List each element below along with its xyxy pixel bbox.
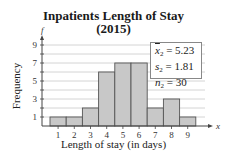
histogram-bar <box>66 117 82 126</box>
histogram-bar <box>82 108 98 126</box>
histogram-bar <box>163 99 179 126</box>
y-axis-arrow-icon <box>40 35 44 40</box>
legend-mean: x2 = 5.23 <box>155 44 201 60</box>
y-axis-label: Frequency <box>10 61 22 111</box>
legend-n: n2 = 30 <box>155 76 201 92</box>
y-tick-label: 7 <box>33 58 38 68</box>
x-axis-arrow-icon <box>208 124 213 128</box>
histogram-bar <box>147 108 163 126</box>
legend-sd: s2 = 1.81 <box>155 60 201 76</box>
histogram-bar <box>50 117 66 126</box>
y-tick-label: 3 <box>33 94 38 104</box>
y-tick-label: 5 <box>33 76 38 86</box>
y-tick-label: 1 <box>33 112 38 122</box>
histogram-bar <box>99 72 115 126</box>
statistics-legend: x2 = 5.23 s2 = 1.81 n2 = 30 <box>150 42 202 79</box>
histogram-bar <box>131 63 147 126</box>
x-axis-label: Length of stay (in days) <box>0 138 227 150</box>
x-axis-symbol: x <box>215 121 220 131</box>
y-axis-symbol: f <box>41 25 45 35</box>
y-tick-label: 9 <box>33 40 38 50</box>
histogram-bar <box>115 63 131 126</box>
histogram-bar <box>180 117 196 126</box>
